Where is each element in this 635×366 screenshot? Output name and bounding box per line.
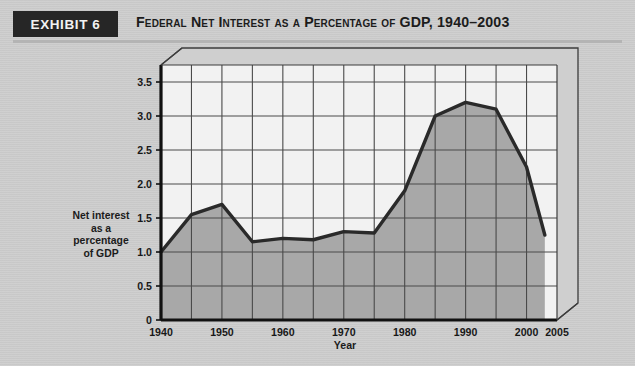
- x-tick-label: 1980: [393, 326, 417, 338]
- x-tick-label: 2000: [515, 326, 539, 338]
- y-tick-label: 3.5: [137, 76, 152, 88]
- y-tick-label: 2.5: [137, 144, 152, 156]
- y-tick-label: 3.0: [137, 110, 152, 122]
- exhibit-number-label: EXHIBIT 6: [13, 11, 118, 37]
- y-tick-label: 1.5: [137, 212, 152, 224]
- x-tick-label: 1960: [271, 326, 295, 338]
- x-tick-label: 1970: [332, 326, 356, 338]
- y-tick-label: 0: [146, 314, 152, 326]
- x-tick-label: 2005: [545, 326, 569, 338]
- chart-figure: Net interestas apercentageof GDP Year 00…: [0, 42, 635, 366]
- chart-title: Federal Net Interest as a Percentage of …: [136, 14, 509, 30]
- y-tick-label: 0.5: [137, 280, 152, 292]
- x-tick-label: 1950: [210, 326, 234, 338]
- exhibit-header: EXHIBIT 6 Federal Net Interest as a Perc…: [0, 11, 635, 40]
- x-tick-label: 1940: [149, 326, 173, 338]
- area-chart-svg: 00.51.01.52.02.53.03.5194019501960197019…: [0, 42, 635, 366]
- exhibit-number-band: EXHIBIT 6: [13, 11, 118, 37]
- y-tick-label: 1.0: [137, 246, 152, 258]
- y-tick-label: 2.0: [137, 178, 152, 190]
- x-tick-label: 1990: [454, 326, 478, 338]
